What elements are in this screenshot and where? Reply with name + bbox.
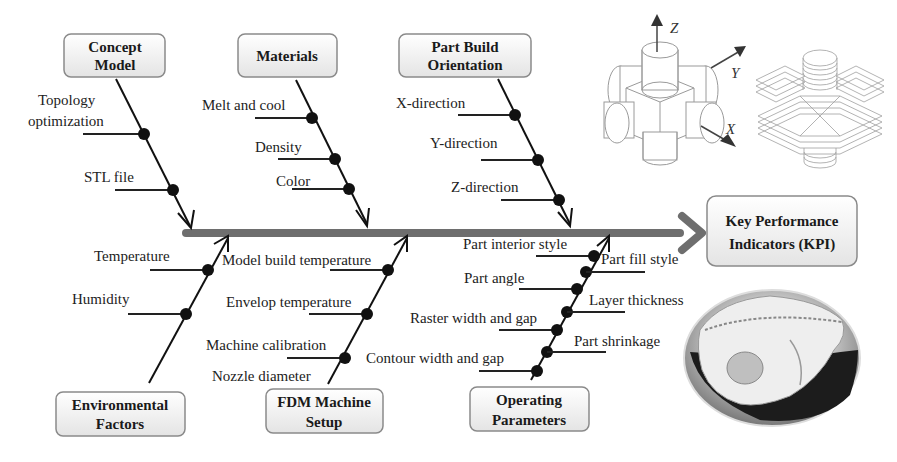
cause-label: Z-direction: [451, 179, 519, 195]
category-part-build-orientation: Part Build Orientation X-direction Y-dir…: [396, 34, 572, 226]
category-environmental-factors: Environmental Factors Temperature Humidi…: [56, 236, 228, 436]
category-title: Materials: [256, 48, 318, 64]
cause-label: Color: [276, 173, 310, 189]
skull-model-photo: [684, 290, 860, 426]
axis-label-z: Z: [670, 20, 679, 36]
category-title: Orientation: [428, 57, 504, 73]
sliced-part-illustration: [756, 50, 884, 168]
cause-label: Machine calibration: [206, 337, 327, 353]
cause-label: Part interior style: [463, 236, 567, 252]
effect-label-line1: Key Performance: [726, 213, 839, 229]
axis-label-y: Y: [731, 65, 741, 81]
category-materials: Materials Melt and cool Density Color: [202, 34, 369, 226]
cause-label: Part shrinkage: [574, 333, 661, 349]
cause-label: Nozzle diameter: [212, 368, 311, 384]
category-title: Concept: [88, 39, 141, 55]
category-concept-model: Concept Model Topology optimization STL …: [28, 34, 194, 228]
category-title: Part Build: [431, 39, 499, 55]
cause-label: Temperature: [94, 248, 170, 264]
category-title: Model: [95, 57, 136, 73]
category-title: Parameters: [492, 412, 566, 428]
axis-label-x: X: [725, 121, 736, 137]
category-title: FDM Machine: [277, 394, 371, 410]
cause-label: Density: [255, 139, 302, 155]
category-title: Factors: [96, 416, 144, 432]
spine-arrow: [186, 216, 702, 250]
cause-label: Y-direction: [430, 135, 498, 151]
category-fdm-machine-setup: FDM Machine Setup Model build temperatur…: [206, 236, 407, 433]
cause-label: Contour width and gap: [366, 350, 504, 366]
cause-label: Part angle: [464, 270, 525, 286]
cause-label: optimization: [28, 113, 104, 129]
cause-label: Part fill style: [601, 251, 679, 267]
fishbone-diagram: Key Performance Indicators (KPI) Concept…: [0, 0, 897, 462]
category-title: Setup: [306, 414, 343, 430]
cause-label: STL file: [84, 169, 134, 185]
category-title: Environmental: [72, 397, 168, 413]
cause-label: Model build temperature: [222, 252, 371, 268]
cause-label: X-direction: [396, 95, 466, 111]
cause-label: Envelop temperature: [226, 294, 352, 310]
category-operating-parameters: Operating Parameters Part interior style…: [366, 236, 684, 431]
cause-label: Topology: [38, 92, 96, 108]
cause-label: Melt and cool: [202, 97, 285, 113]
effect-label-line2: Indicators (KPI): [729, 236, 835, 253]
cause-label: Humidity: [72, 291, 130, 307]
cause-label: Layer thickness: [589, 292, 684, 308]
cause-label: Raster width and gap: [410, 310, 537, 326]
category-title: Operating: [496, 392, 562, 408]
effect-box-kpi: Key Performance Indicators (KPI): [707, 196, 857, 266]
part-orientation-illustration: Z Y X: [604, 14, 746, 165]
